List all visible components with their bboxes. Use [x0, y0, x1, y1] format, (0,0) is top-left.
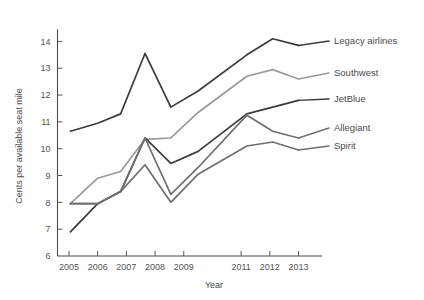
x-axis: 20052006200720082009201120122013 [58, 251, 323, 272]
y-axis: 67891011121314 [40, 29, 62, 261]
y-tick-label: 6 [45, 251, 50, 261]
y-tick-label: 12 [40, 90, 50, 100]
x-tick-label: 2009 [174, 262, 194, 272]
x-tick-label: 2013 [289, 262, 309, 272]
y-tick-label: 14 [40, 37, 50, 47]
series-line [70, 70, 298, 204]
series-leader-line [299, 99, 329, 100]
y-axis-title: Cents per available seat mile [14, 88, 24, 204]
y-tick-label: 11 [41, 117, 50, 127]
series-label: Spirit [334, 140, 356, 151]
series-label: Southwest [334, 67, 379, 78]
x-axis-title: Year [205, 280, 223, 290]
y-tick-label: 9 [45, 171, 50, 181]
series-label: JetBlue [334, 93, 366, 104]
series-line [70, 115, 298, 204]
y-tick-label: 7 [45, 224, 50, 234]
x-tick-label: 2007 [116, 262, 136, 272]
y-tick-label: 10 [40, 144, 50, 154]
series-label: Allegiant [334, 122, 371, 133]
x-tick-label: 2006 [88, 262, 108, 272]
series-lines [70, 39, 298, 232]
x-tick-label: 2012 [260, 262, 280, 272]
x-tick-label: 2008 [145, 262, 165, 272]
chart-canvas: 67891011121314 2005200620072008200920112… [0, 0, 424, 300]
series-leader-line [299, 41, 329, 45]
x-tick-label: 2005 [59, 262, 79, 272]
series-label: Legacy airlines [334, 35, 398, 46]
y-tick-label: 8 [45, 198, 50, 208]
x-tick-label: 2011 [231, 262, 250, 272]
line-chart: 67891011121314 2005200620072008200920112… [0, 0, 424, 300]
y-tick-label: 13 [40, 63, 50, 73]
series-line [70, 142, 298, 204]
series-leader-line [299, 73, 329, 79]
series-labels: Legacy airlinesSouthwestJetBlueAllegiant… [299, 35, 398, 151]
series-leader-line [299, 128, 329, 138]
series-leader-line [299, 146, 329, 150]
series-line [70, 39, 298, 132]
